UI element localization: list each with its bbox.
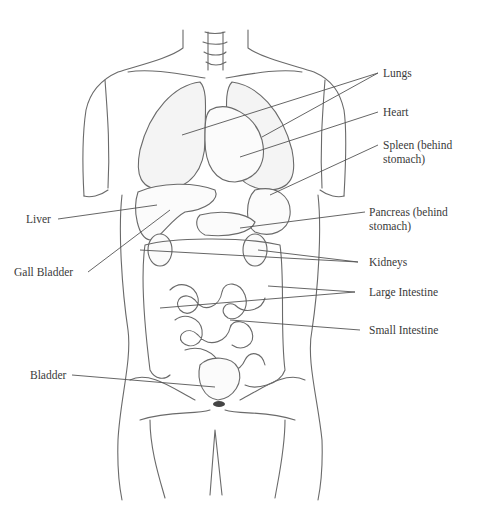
label-heart: Heart — [383, 105, 409, 119]
label-pancreas-line2: stomach) — [369, 219, 448, 233]
label-spleen: Spleen (behind stomach) — [383, 138, 452, 166]
label-spleen-line2: stomach) — [383, 152, 452, 166]
label-lungs: Lungs — [383, 66, 412, 80]
label-kidneys: Kidneys — [369, 255, 407, 269]
clavicles — [128, 71, 302, 78]
bladder-base — [213, 401, 225, 407]
label-small-intestine: Small Intestine — [369, 323, 438, 337]
label-pancreas: Pancreas (behind stomach) — [369, 205, 448, 233]
label-large-intestine: Large Intestine — [369, 285, 438, 299]
leader-kidneys-1 — [258, 250, 358, 262]
label-spleen-line1: Spleen (behind — [383, 138, 452, 152]
label-bladder: Bladder — [30, 368, 66, 382]
label-gall-bladder: Gall Bladder — [14, 265, 73, 279]
anatomy-diagram: Lungs Heart Spleen (behind stomach) Live… — [0, 0, 483, 519]
leader-lungs-2 — [262, 73, 378, 137]
label-pancreas-line1: Pancreas (behind — [369, 205, 448, 219]
leader-small-intestine — [230, 320, 360, 330]
spine — [203, 32, 227, 70]
label-liver: Liver — [26, 212, 51, 226]
leader-large-intestine-1 — [268, 286, 355, 292]
stomach — [248, 189, 291, 235]
pancreas — [197, 212, 255, 235]
torso-outline — [83, 30, 346, 500]
leader-large-intestine-2 — [160, 292, 355, 308]
bladder — [199, 358, 240, 400]
